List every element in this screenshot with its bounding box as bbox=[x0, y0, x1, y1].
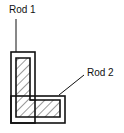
rod2-label: Rod 2 bbox=[87, 68, 114, 78]
rod1-label: Rod 1 bbox=[9, 5, 36, 15]
rod2-leader-line bbox=[59, 75, 84, 95]
hatched-core bbox=[16, 58, 60, 117]
